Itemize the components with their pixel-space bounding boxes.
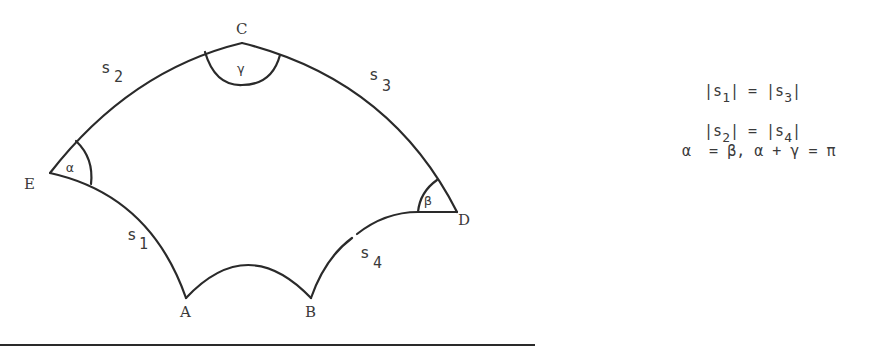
pentagon-diagram: C E D A B γ α β s 2 s 3 s 1 s 4: [0, 0, 890, 351]
equation-angle-relations: α = β, α + γ = π: [682, 142, 836, 160]
side-s2-arc: [50, 43, 242, 173]
side-s4-arc-upper: [357, 212, 457, 234]
side-ab-arc: [186, 265, 311, 298]
vertex-label-c: C: [236, 20, 247, 38]
side-label-s3: s 3: [369, 65, 391, 95]
svg-text:2: 2: [114, 68, 123, 86]
vertex-label-e: E: [24, 175, 35, 193]
side-label-s2: s 2: [101, 58, 123, 86]
svg-text:s: s: [101, 58, 111, 77]
angle-label-beta: β: [424, 193, 432, 208]
svg-text:4: 4: [373, 254, 382, 272]
vertex-label-d: D: [458, 211, 470, 229]
side-s4-arc-lower: [311, 238, 352, 298]
angle-label-gamma: γ: [237, 61, 245, 76]
vertex-label-b: B: [305, 303, 316, 321]
svg-text:s: s: [369, 65, 379, 84]
angle-label-alpha: α: [66, 160, 74, 175]
equation-s2-equals-s4: |s2| = |s4|: [686, 104, 801, 145]
angle-alpha-arc: [76, 141, 91, 184]
side-label-s4: s 4: [360, 243, 382, 272]
side-s1-arc: [50, 173, 186, 298]
side-label-s1: s 1: [127, 225, 148, 253]
svg-text:s: s: [127, 225, 137, 244]
vertex-label-a: A: [179, 303, 191, 321]
svg-text:1: 1: [139, 235, 148, 253]
svg-text:3: 3: [382, 77, 391, 95]
equation-s1-equals-s3: |s1| = |s3|: [686, 64, 801, 105]
svg-text:s: s: [360, 243, 370, 262]
